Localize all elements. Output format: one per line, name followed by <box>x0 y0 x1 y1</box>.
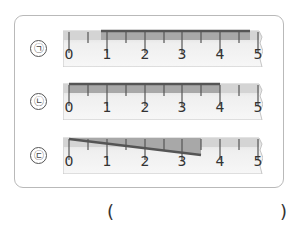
svg-text:5: 5 <box>254 153 263 169</box>
tick-label-2: 2 <box>141 46 150 62</box>
ruler-row-3: ㉢ <box>0 136 299 176</box>
tick-label-0: 0 <box>65 46 74 62</box>
row-label-3: ㉢ <box>30 147 47 164</box>
close-paren: ) <box>280 201 287 222</box>
ruler-row-2: ㉡ <box>0 82 299 122</box>
ruler-3: 0 1 2 3 4 5 <box>63 136 263 174</box>
tick-label-1: 1 <box>103 46 112 62</box>
tick-label-4: 4 <box>216 46 225 62</box>
svg-text:0: 0 <box>65 99 74 115</box>
answer-input[interactable] <box>125 204 270 226</box>
svg-text:2: 2 <box>141 153 150 169</box>
ruler-3-graphic: 0 1 2 3 4 5 <box>63 136 263 174</box>
svg-text:1: 1 <box>103 99 112 115</box>
ruler-2-graphic: 0 1 2 3 4 5 <box>63 82 263 120</box>
svg-text:3: 3 <box>178 99 187 115</box>
svg-text:0: 0 <box>65 153 74 169</box>
answer-area: ( ) <box>0 201 299 231</box>
svg-text:4: 4 <box>216 153 225 169</box>
ruler-row-1: ㉠ <box>0 29 299 69</box>
row-label-1: ㉠ <box>30 40 47 57</box>
ruler-1: 0 1 2 3 4 5 <box>63 29 263 67</box>
open-paren: ( <box>107 201 114 222</box>
ruler-1-graphic: 0 1 2 3 4 5 <box>63 29 263 67</box>
svg-text:2: 2 <box>141 99 150 115</box>
svg-text:5: 5 <box>254 99 263 115</box>
svg-text:3: 3 <box>178 153 187 169</box>
tick-label-5: 5 <box>254 46 263 62</box>
svg-text:4: 4 <box>216 99 225 115</box>
ruler-2: 0 1 2 3 4 5 <box>63 82 263 120</box>
tick-label-3: 3 <box>178 46 187 62</box>
svg-text:1: 1 <box>103 153 112 169</box>
row-label-2: ㉡ <box>30 93 47 110</box>
